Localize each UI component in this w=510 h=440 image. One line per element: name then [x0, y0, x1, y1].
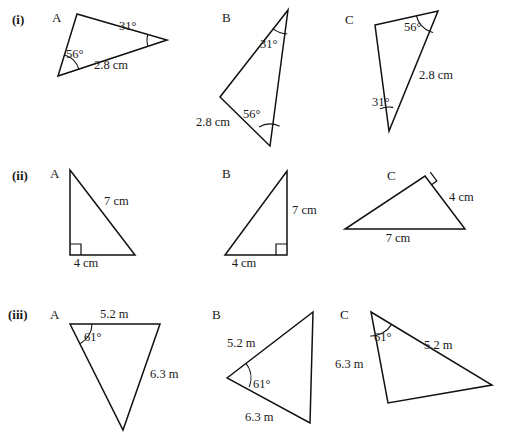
- triangle-name-B: B: [212, 307, 221, 323]
- angle-label-2: 56°: [243, 107, 261, 122]
- triangle-ii-C: [345, 172, 465, 229]
- right-angle-marker-1: [276, 244, 287, 255]
- triangle-name-A: A: [50, 166, 59, 182]
- right-angle-marker-1: [70, 244, 81, 255]
- side-length-label-1: 7 cm: [292, 203, 317, 218]
- angle-label-2: 61°: [253, 377, 271, 392]
- triangle-name-B: B: [222, 10, 231, 26]
- triangle-ii-A: [70, 170, 135, 255]
- side-length-label-2: 4 cm: [232, 256, 257, 271]
- side-length-label-3: 2.8 cm: [94, 58, 128, 73]
- side-length-label-2: 4 cm: [74, 256, 99, 271]
- angle-label-1: 61°: [374, 330, 392, 345]
- triangle-outline: [345, 176, 465, 229]
- triangle-iii-B: [227, 312, 313, 423]
- angle-label-2: 31°: [119, 19, 137, 34]
- side-length-label-3: 6.3 m: [150, 367, 178, 382]
- side-length-label-1: 5.2 m: [227, 336, 255, 351]
- row-label-2: (ii): [12, 168, 28, 184]
- angle-label-1: 31°: [260, 37, 278, 52]
- angle-arc-2: [259, 124, 280, 127]
- triangle-name-A: A: [50, 307, 59, 323]
- triangle-name-C: C: [345, 12, 354, 28]
- row-label-3: (iii): [8, 307, 28, 323]
- angle-label-2: 31°: [372, 95, 390, 110]
- triangle-name-B: B: [222, 166, 231, 182]
- triangle-outline: [371, 312, 492, 403]
- angle-arc-2: [147, 34, 148, 46]
- angle-arc-1: [246, 363, 251, 387]
- row-label-1: (i): [12, 12, 24, 28]
- worksheet-page: (i)A56°31°2.8 cmB31°56°2.8 cmC56°31°2.8 …: [0, 0, 510, 440]
- side-length-label-1: 5.2 m: [100, 307, 128, 322]
- side-length-label-3: 6.3 m: [245, 410, 273, 425]
- triangle-outline: [225, 171, 287, 255]
- angle-label-1: 56°: [404, 20, 422, 35]
- side-length-label-2: 7 cm: [386, 231, 411, 246]
- triangle-i-B: [220, 10, 288, 146]
- side-length-label-3: 2.8 cm: [196, 115, 230, 130]
- angle-label-2: 61°: [84, 330, 102, 345]
- triangle-name-C: C: [340, 307, 349, 323]
- side-length-label-3: 2.8 cm: [419, 68, 453, 83]
- side-length-label-1: 4 cm: [449, 190, 474, 205]
- side-length-label-2: 5.2 m: [424, 338, 452, 353]
- triangle-ii-B: [225, 171, 287, 255]
- triangle-iii-C: [370, 312, 492, 403]
- angle-label-1: 56°: [66, 47, 84, 62]
- triangle-name-A: A: [52, 10, 61, 26]
- triangles-figure: [0, 0, 510, 440]
- side-length-label-3: 6.3 m: [335, 357, 363, 372]
- triangle-outline: [227, 312, 313, 423]
- triangle-outline: [70, 170, 135, 255]
- side-length-label-1: 7 cm: [104, 194, 129, 209]
- triangle-name-C: C: [387, 168, 396, 184]
